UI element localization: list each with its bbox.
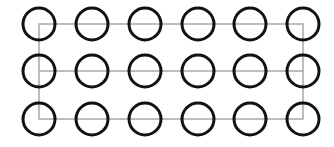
- circle-grid-diagram: [0, 0, 334, 147]
- connector-lines: [39, 24, 303, 119]
